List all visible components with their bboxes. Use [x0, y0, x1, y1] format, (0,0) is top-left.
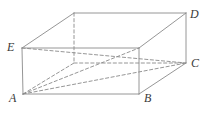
dashed-edges-group	[22, 13, 186, 94]
vertex-label-d: D	[190, 8, 199, 20]
front-left-edge	[22, 48, 23, 94]
vertex-label-a: A	[9, 92, 16, 104]
box-diagram-canvas	[0, 0, 213, 115]
top-right-slant-edge	[139, 13, 186, 48]
hidden-base-diagonal	[23, 48, 139, 94]
geometry-figure: EDCAB	[0, 0, 213, 115]
vertex-label-b: B	[144, 92, 151, 104]
vertex-label-c: C	[191, 57, 199, 69]
solid-edges-group	[22, 13, 186, 94]
diagonal-A-to-C	[23, 63, 186, 94]
vertex-label-e: E	[7, 41, 14, 53]
hidden-top-face-diagonal	[22, 48, 186, 63]
top-left-slant-edge	[22, 13, 74, 48]
